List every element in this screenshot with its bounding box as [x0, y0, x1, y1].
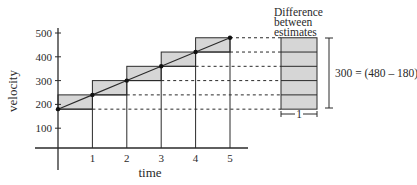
y-tick-label: 400 — [36, 51, 53, 63]
velocity-point — [56, 107, 60, 111]
y-tick-label: 200 — [36, 98, 53, 110]
x-tick-label: 4 — [193, 152, 199, 164]
velocity-point — [159, 64, 163, 68]
difference-title-line-3: estimates — [274, 26, 317, 38]
rectangle-estimates-diagram: 12345100200300400500 time velocity Diffe… — [0, 0, 417, 185]
difference-equation: 300 = (480 – 180) — [335, 67, 417, 80]
x-tick-label: 5 — [227, 152, 233, 164]
y-tick-label: 100 — [36, 122, 53, 134]
y-axis-title: velocity — [5, 70, 20, 112]
y-tick-label: 500 — [36, 27, 53, 39]
x-tick-label: 1 — [90, 152, 96, 164]
velocity-point — [125, 78, 129, 82]
x-tick-label: 2 — [124, 152, 130, 164]
velocity-point — [228, 36, 232, 40]
width-label: 1 — [296, 108, 302, 120]
velocity-point — [90, 93, 94, 97]
x-tick-label: 3 — [158, 152, 164, 164]
dashed-guides — [92, 38, 281, 109]
velocity-line — [58, 38, 230, 109]
velocity-line-path — [58, 38, 230, 109]
difference-stack-box — [281, 38, 317, 109]
velocity-point — [193, 50, 197, 54]
difference-stack — [281, 38, 317, 109]
x-axis-title: time — [138, 165, 161, 180]
y-tick-label: 300 — [36, 75, 53, 87]
